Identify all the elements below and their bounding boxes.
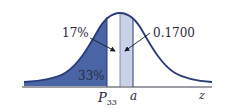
z-axis-label: z: [198, 89, 205, 102]
right-callout-label: 0.1700: [153, 26, 195, 40]
tail-area-label: 33%: [78, 69, 105, 83]
normal-curve-diagram: 17% 0.1700 33% P33 a z: [0, 0, 234, 109]
a-point-label: a: [130, 89, 137, 103]
percentile-label: P33: [97, 90, 117, 107]
bell-curve: [24, 13, 212, 82]
left-callout-label: 17%: [62, 26, 89, 40]
